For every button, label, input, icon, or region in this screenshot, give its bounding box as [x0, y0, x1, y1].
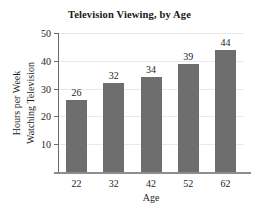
- bar: 26: [66, 100, 87, 172]
- bar-value-label: 32: [109, 70, 119, 81]
- y-tick-label: 20: [41, 111, 51, 122]
- chart-title: Television Viewing, by Age: [0, 9, 259, 20]
- y-tick-mark: [54, 61, 59, 62]
- bar: 32: [103, 83, 124, 172]
- chart-figure: Television Viewing, by Age Hours per Wee…: [0, 0, 259, 213]
- x-tick-label: 62: [210, 178, 240, 189]
- bar-value-label: 44: [220, 37, 230, 48]
- bar-value-label: 26: [72, 87, 82, 98]
- x-tick-label: 32: [99, 178, 129, 189]
- y-tick-label: 10: [41, 139, 51, 150]
- x-tick-label: 22: [62, 178, 92, 189]
- x-axis-line: [54, 172, 251, 174]
- y-axis-title: Hours per Week Watching Television: [8, 33, 38, 172]
- y-tick-label: 50: [41, 28, 51, 39]
- y-axis-title-line-1: Hours per Week: [10, 62, 24, 144]
- y-tick-label: 40: [41, 55, 51, 66]
- x-tick-label: 42: [136, 178, 166, 189]
- y-tick-mark: [54, 33, 59, 34]
- y-axis-line: [58, 33, 59, 172]
- bar: 39: [178, 64, 199, 172]
- plot-area: 1020304050 2632343944 2232425262: [58, 33, 244, 172]
- bar-value-label: 34: [146, 64, 156, 75]
- y-tick-mark: [54, 116, 59, 117]
- x-axis-title: Age: [58, 192, 244, 203]
- x-tick-label: 52: [173, 178, 203, 189]
- y-tick-mark: [54, 89, 59, 90]
- bar-value-label: 39: [183, 51, 193, 62]
- y-tick-label: 30: [41, 83, 51, 94]
- y-axis-title-line-2: Watching Television: [23, 62, 37, 144]
- gridline: [58, 33, 244, 34]
- bar: 34: [141, 77, 162, 172]
- y-tick-mark: [54, 144, 59, 145]
- bar: 44: [215, 50, 236, 172]
